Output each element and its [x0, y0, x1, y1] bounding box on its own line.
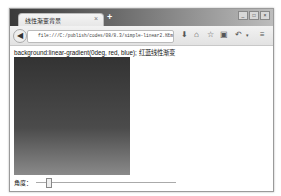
close-window-button[interactable]: × — [260, 11, 270, 20]
angle-slider[interactable] — [36, 182, 176, 183]
tab-title: 线性渐变背景 — [25, 16, 61, 25]
minimize-button[interactable]: _ — [238, 11, 248, 20]
gradient-code-label: background:linear-gradient(0deg, red, bl… — [14, 48, 175, 57]
screenshot-icon[interactable]: ▣ — [220, 31, 228, 39]
close-tab-icon[interactable]: × — [94, 15, 98, 22]
browser-tab[interactable]: 线性渐变背景 × — [18, 13, 104, 27]
navigation-toolbar: ◀ file:///C:/publish/codes/08/8.3/simple… — [10, 26, 273, 46]
title-bar: 线性渐变背景 × + _ □ × — [10, 9, 273, 26]
browser-window: 线性渐变背景 × + _ □ × ◀ file:///C:/publish/co… — [9, 8, 274, 192]
url-bar[interactable]: file:///C:/publish/codes/08/8.3/simple-l… — [27, 30, 174, 43]
bookmark-star-icon[interactable]: ☆ — [207, 31, 214, 39]
window-controls: _ □ × — [238, 11, 270, 20]
angle-slider-thumb[interactable] — [46, 178, 52, 188]
angle-label: 角度： — [14, 178, 32, 187]
url-text: file:///C:/publish/codes/08/8.3/simple-l… — [38, 33, 173, 38]
new-tab-button[interactable]: + — [107, 13, 112, 22]
dropdown-icon[interactable]: ▾ — [246, 31, 249, 39]
maximize-button[interactable]: □ — [249, 11, 259, 20]
back-arrow-icon: ◀ — [17, 31, 23, 40]
back-button[interactable]: ◀ — [13, 29, 27, 43]
home-icon[interactable]: ⌂ — [194, 31, 199, 39]
gradient-box — [14, 57, 130, 175]
download-icon[interactable]: ⬇ — [181, 31, 188, 39]
undo-icon[interactable]: ↶ — [235, 31, 242, 39]
angle-control: 角度： — [14, 177, 194, 187]
reload-icon[interactable]: C — [166, 32, 170, 38]
menu-icon[interactable]: ≡ — [260, 31, 265, 39]
page-content: background:linear-gradient(0deg, red, bl… — [10, 46, 273, 191]
